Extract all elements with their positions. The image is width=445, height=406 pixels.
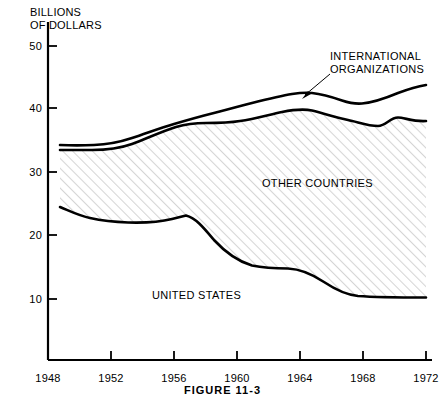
x-tick-label-1948: 1948 — [35, 372, 60, 384]
x-axis-tick-labels: 1948 1952 1956 1960 1964 1968 1972 — [35, 372, 438, 384]
x-axis-ticks — [48, 351, 426, 360]
y-tick-label-40: 40 — [29, 102, 42, 114]
label-other-countries: OTHER COUNTRIES — [262, 177, 373, 190]
x-tick-label-1964: 1964 — [287, 372, 312, 384]
y-axis-ticks — [48, 46, 57, 299]
y-tick-label-50: 50 — [29, 40, 42, 52]
x-tick-label-1968: 1968 — [350, 372, 375, 384]
y-tick-label-20: 20 — [29, 229, 42, 241]
figure-container: BILLIONSOF DOLLARS — [0, 0, 445, 406]
area-other-countries — [60, 110, 426, 298]
label-united-states: UNITED STATES — [152, 289, 241, 302]
stacked-areas — [60, 110, 426, 298]
x-tick-label-1952: 1952 — [98, 372, 123, 384]
figure-caption: FIGURE 11-3 — [0, 384, 445, 396]
y-tick-label-30: 30 — [29, 166, 42, 178]
x-tick-label-1956: 1956 — [161, 372, 186, 384]
label-international-organizations: INTERNATIONAL ORGANIZATIONS — [330, 50, 424, 75]
y-axis-tick-labels: 50 40 30 20 10 — [29, 40, 42, 305]
x-tick-label-1972: 1972 — [413, 372, 438, 384]
x-tick-label-1960: 1960 — [224, 372, 249, 384]
y-tick-label-10: 10 — [29, 293, 42, 305]
